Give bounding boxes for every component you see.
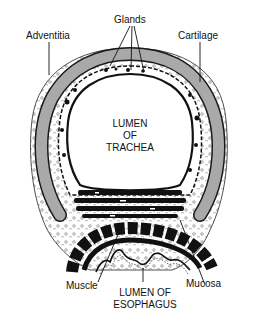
label-mucosa: Mucosa — [186, 278, 221, 289]
diagram-illustration — [0, 0, 260, 320]
label-lumen-trachea: LUMEN OF TRACHEA — [100, 118, 160, 154]
trachea-esophagus-diagram: Glands Adventitia Cartilage LUMEN OF TRA… — [0, 0, 260, 320]
label-adventitia: Adventitia — [26, 30, 70, 41]
label-glands: Glands — [114, 14, 146, 25]
label-muscle: Muscle — [66, 280, 98, 291]
label-cartilage: Cartilage — [178, 30, 218, 41]
label-lumen-esophagus: LUMEN OF ESOPHAGUS — [100, 287, 190, 311]
